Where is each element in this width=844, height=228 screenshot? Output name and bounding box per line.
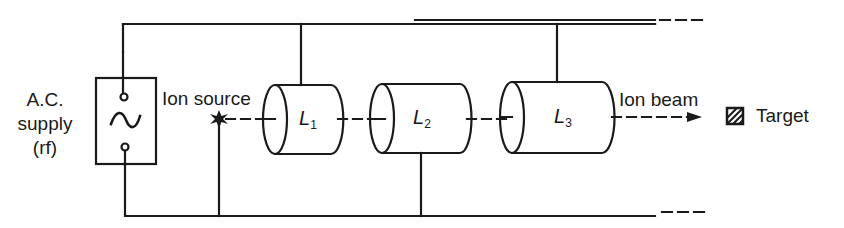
ac-supply-label-line1: A.C. bbox=[0, 88, 90, 112]
linear-accelerator-diagram: A.C. supply (rf) Ion source L1 L2 L3 Ion… bbox=[0, 0, 844, 228]
supply-terminal-top bbox=[121, 94, 128, 101]
lens-l1-index: 1 bbox=[310, 118, 317, 132]
lens-l2-letter: L bbox=[413, 106, 424, 128]
lens-l3-label: L3 bbox=[554, 106, 572, 129]
lens-l1-letter: L bbox=[299, 107, 310, 129]
top-rail-wire-right bbox=[123, 20, 655, 24]
ion-source-label: Ion source bbox=[162, 89, 251, 108]
target-label: Target bbox=[756, 106, 809, 125]
sine-wave-icon bbox=[111, 113, 140, 127]
lens-l2-label: L2 bbox=[413, 107, 431, 130]
ion-beam-label: Ion beam bbox=[619, 90, 698, 109]
lens-l2-cylinder bbox=[370, 84, 471, 216]
beam-arrow-icon bbox=[687, 112, 702, 122]
ion-beam-path bbox=[226, 117, 690, 119]
bottom-rail-wire bbox=[125, 165, 655, 216]
lens-l3-letter: L bbox=[554, 105, 565, 127]
ac-supply-label-line3: (rf) bbox=[0, 136, 90, 160]
lens-l1-cylinder bbox=[263, 24, 343, 154]
supply-terminal-bottom bbox=[122, 144, 129, 151]
ac-supply-label: A.C. supply (rf) bbox=[0, 88, 90, 160]
lens-l3-cylinder bbox=[500, 24, 615, 153]
lens-l3-index: 3 bbox=[565, 116, 572, 130]
ac-supply-label-line2: supply bbox=[0, 112, 90, 136]
lens-l2-index: 2 bbox=[424, 117, 431, 131]
target-hatched-square-icon bbox=[727, 108, 743, 124]
lens-l1-label: L1 bbox=[299, 108, 317, 131]
top-rail-wire bbox=[123, 24, 655, 52]
